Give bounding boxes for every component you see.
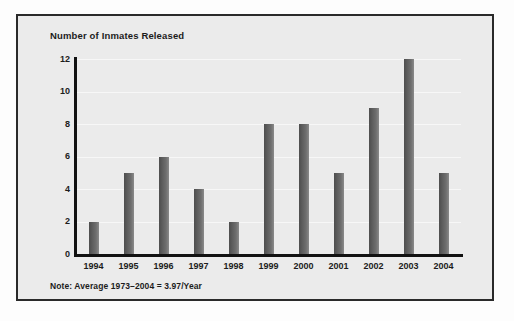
x-axis-tick-label: 1995 <box>109 262 149 271</box>
bar <box>369 108 379 254</box>
x-axis-tick-label: 2000 <box>284 262 324 271</box>
plot-area <box>76 59 461 254</box>
x-axis-tick-label: 2004 <box>424 262 464 271</box>
bar <box>334 173 344 254</box>
bar <box>159 157 169 255</box>
y-axis-tick-label: 12 <box>44 55 70 64</box>
y-axis-tick-label: 8 <box>44 120 70 129</box>
y-axis-tick-label: 0 <box>44 250 70 259</box>
x-axis-tick-label: 1996 <box>144 262 184 271</box>
bar <box>89 222 99 255</box>
x-axis-tick-labels: 1994199519961997199819992000200120022003… <box>76 262 461 276</box>
y-axis-tick-label: 4 <box>44 185 70 194</box>
y-axis-tick-label: 6 <box>44 152 70 161</box>
bar <box>439 173 449 254</box>
bar <box>299 124 309 254</box>
x-axis-tick-label: 1994 <box>74 262 114 271</box>
bar <box>229 222 239 255</box>
chart-frame: Number of Inmates Released 024681012 199… <box>16 14 494 301</box>
x-axis-line <box>74 254 463 257</box>
bar <box>404 59 414 254</box>
y-axis-tick-label: 10 <box>44 87 70 96</box>
x-axis-tick-label: 1997 <box>179 262 219 271</box>
bar <box>264 124 274 254</box>
y-axis-tick-labels: 024681012 <box>42 59 70 254</box>
chart-title: Number of Inmates Released <box>50 30 184 41</box>
bar <box>194 189 204 254</box>
y-axis-tick-label: 2 <box>44 217 70 226</box>
x-axis-tick-label: 1998 <box>214 262 254 271</box>
x-axis-tick-label: 2003 <box>389 262 429 271</box>
chart-panel: Number of Inmates Released 024681012 199… <box>18 16 492 299</box>
x-axis-tick-label: 1999 <box>249 262 289 271</box>
bar <box>124 173 134 254</box>
chart-note: Note: Average 1973–2004 = 3.97/Year <box>50 281 202 291</box>
x-axis-tick-label: 2002 <box>354 262 394 271</box>
x-axis-tick-label: 2001 <box>319 262 359 271</box>
chart-figure: Number of Inmates Released 024681012 199… <box>0 0 514 321</box>
